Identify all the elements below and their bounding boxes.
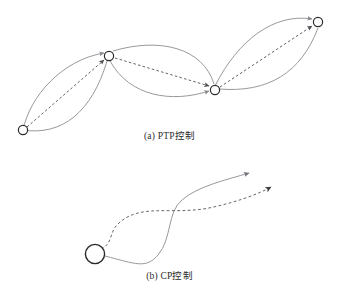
figure-canvas xyxy=(0,0,339,296)
node-4[interactable] xyxy=(313,17,322,26)
arc-upper-2-3 xyxy=(113,45,214,84)
start-circle[interactable] xyxy=(85,244,104,263)
figure-page: (a) PTP控制 (b) CP控制 xyxy=(0,0,339,296)
segment-node3-node4 xyxy=(215,18,318,89)
panel-cp xyxy=(85,173,271,264)
panel-ptp xyxy=(18,17,322,134)
arc-lower-1-2 xyxy=(23,61,107,131)
arc-upper-3-4 xyxy=(215,18,312,86)
dashed-chord-1-2 xyxy=(27,60,104,127)
cp-solid-trajectory xyxy=(105,173,249,264)
arc-upper-1-2 xyxy=(23,53,104,130)
caption-cp: (b) CP控制 xyxy=(0,268,339,282)
segment-node2-node3 xyxy=(110,45,214,96)
node-3[interactable] xyxy=(210,85,219,94)
segment-node1-node2 xyxy=(23,53,107,131)
arc-lower-3-4 xyxy=(219,28,318,89)
caption-ptp: (a) PTP控制 xyxy=(0,128,339,142)
caption-cp-text: (b) CP控制 xyxy=(146,271,193,281)
arc-lower-2-3 xyxy=(110,61,209,97)
caption-ptp-text: (a) PTP控制 xyxy=(144,131,195,141)
node-2[interactable] xyxy=(104,51,113,60)
dashed-chord-2-3 xyxy=(115,58,209,86)
